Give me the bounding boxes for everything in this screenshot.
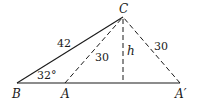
label-side-AC: 30 <box>95 51 109 64</box>
segment-BC <box>17 17 123 83</box>
label-angle-B: 32° <box>37 69 57 82</box>
label-side-BC: 42 <box>57 37 71 50</box>
segment-AC <box>65 17 123 83</box>
label-side-A-prime-C: 30 <box>154 40 168 53</box>
label-A-prime: A′ <box>174 87 187 101</box>
label-B: B <box>11 87 21 101</box>
label-A: A <box>60 87 70 101</box>
label-height-h: h <box>127 44 135 58</box>
label-C: C <box>119 2 128 16</box>
triangle-diagram: C B A A′ 42 30 30 h 32° <box>0 0 199 108</box>
